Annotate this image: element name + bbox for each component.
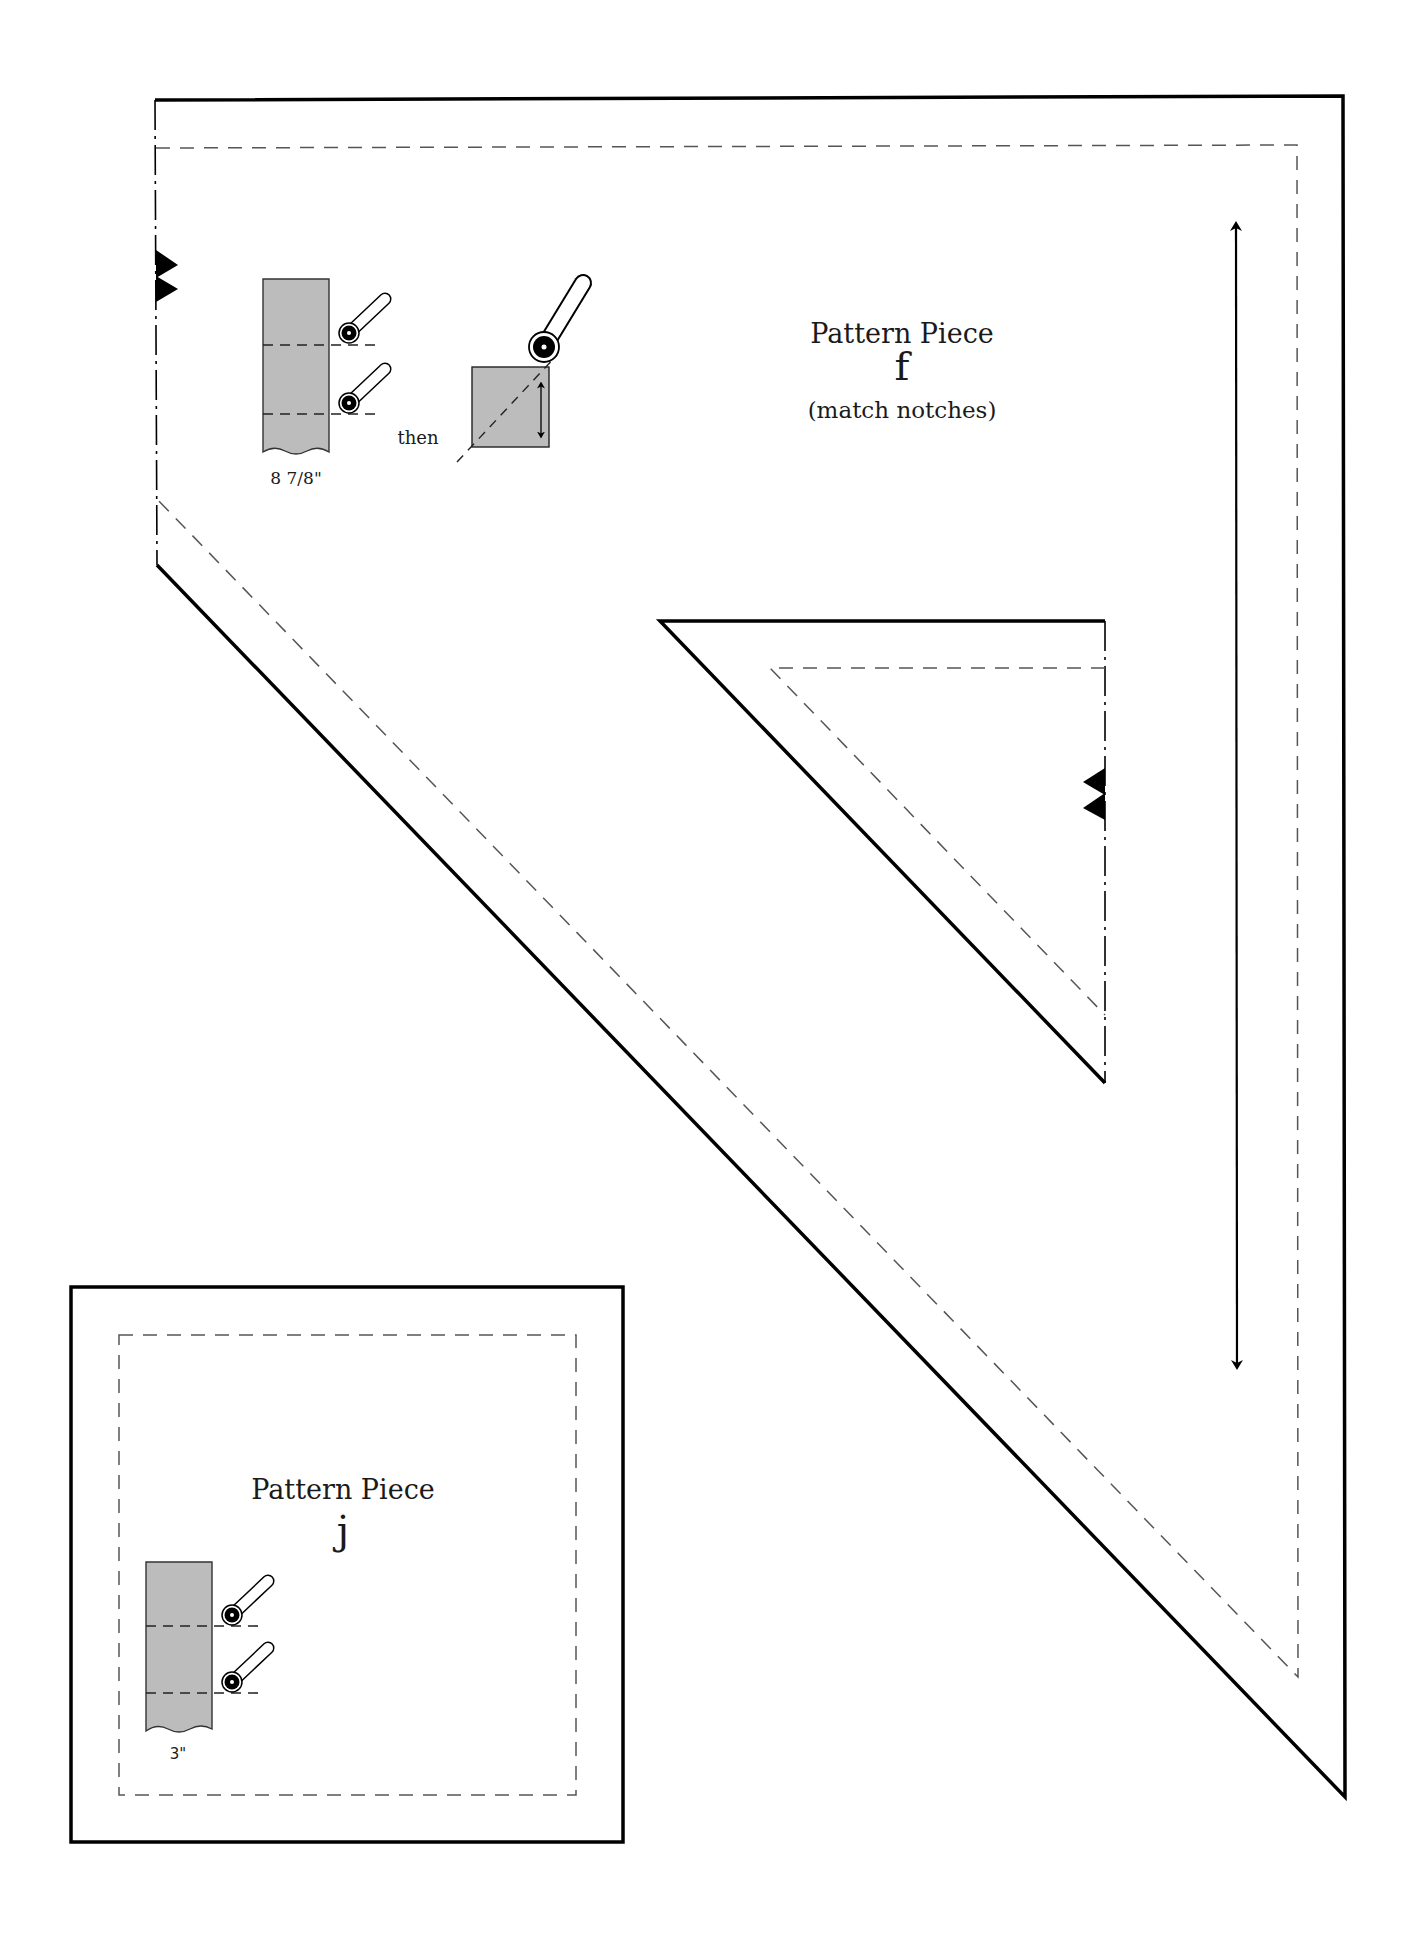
piece-j-strip-measure: 3" [170,1745,186,1763]
pattern-piece-f-inner-triangle [660,621,1105,1083]
piece-f-letter: f [895,344,910,388]
rotary-cutter-icon [529,283,583,362]
rotary-cutter-icon [222,1581,268,1625]
grainline-arrow-icon [1236,226,1237,1365]
fold-line-f [155,100,157,565]
cut-line-inner [660,621,1105,1083]
fabric-square-f [457,355,557,462]
seam-line-inner [770,668,1105,1015]
fabric-strip-j [146,1562,259,1732]
piece-f-then-label: then [397,427,438,448]
notch-icon [156,250,178,302]
fabric-strip-f [263,279,376,454]
piece-j-title: Pattern Piece [251,1474,435,1505]
pattern-sheet: Pattern Piece f (match notches) 8 7/8" t… [0,0,1419,1959]
rotary-cutter-icon [339,299,385,343]
piece-f-strip-measure: 8 7/8" [270,468,321,488]
pattern-piece-j [71,1287,623,1842]
pattern-piece-f [155,96,1345,1797]
rotary-cutter-icon [222,1648,268,1692]
rotary-cutter-icon [339,369,385,413]
notch-icon [1083,768,1105,820]
piece-f-note: (match notches) [808,397,997,423]
piece-j-letter: j [337,1508,349,1552]
